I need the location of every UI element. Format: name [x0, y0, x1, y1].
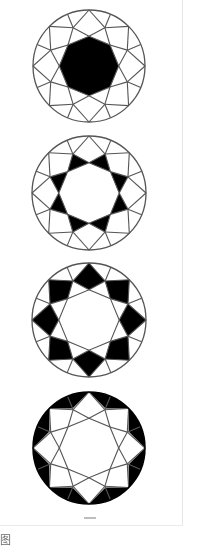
diamond-table: [33, 10, 145, 122]
figure-dash-mark: [84, 517, 96, 519]
brilliant-cut-diagram: [0, 0, 199, 530]
diamond-bezel-facets: [32, 263, 146, 377]
diamond-upper-girdle-facets: [33, 392, 145, 504]
figure-caption: 图: [0, 534, 199, 548]
diamond-star-facets: [32, 136, 146, 250]
